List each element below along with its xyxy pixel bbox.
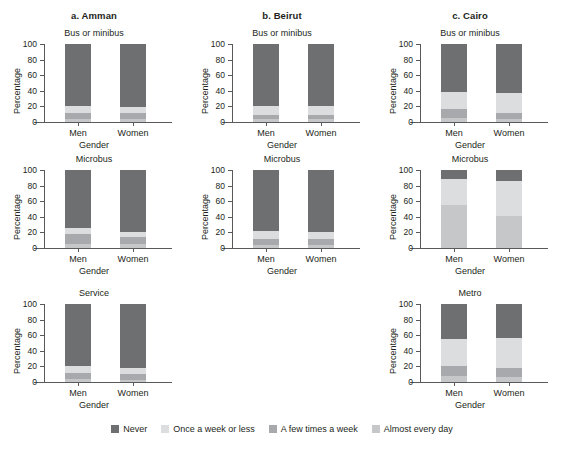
bar-segment <box>308 44 334 106</box>
y-axis-tick-label: 100 <box>23 299 37 309</box>
y-axis-tick <box>40 60 44 61</box>
panel-letter: c. Cairo <box>376 10 564 21</box>
y-axis-tick <box>416 320 420 321</box>
y-axis-tick <box>416 91 420 92</box>
x-axis-line <box>410 248 548 249</box>
y-axis-tick <box>228 122 232 123</box>
y-axis-tick-label: 40 <box>404 346 413 356</box>
bar-segment <box>441 205 467 248</box>
y-axis-tick <box>416 186 420 187</box>
x-axis-tick-label: Women <box>118 388 149 398</box>
x-axis-tick-label: Men <box>445 254 463 264</box>
y-axis-tick-label: 60 <box>28 70 37 80</box>
bar-segment <box>253 170 279 231</box>
y-axis-tick-label: 80 <box>404 315 413 325</box>
y-axis-line <box>420 44 421 122</box>
x-axis-tick-label: Men <box>69 128 87 138</box>
y-axis-tick <box>416 304 420 305</box>
x-axis-line <box>222 248 360 249</box>
x-axis-tick <box>509 122 510 126</box>
chart-panel: ServicePercentage020406080100MenWomenGen… <box>0 282 188 420</box>
x-axis-tick-label: Men <box>445 128 463 138</box>
y-axis-line <box>44 304 45 382</box>
x-axis-tick <box>78 382 79 386</box>
y-axis-tick <box>40 304 44 305</box>
legend-item[interactable]: Almost every day <box>372 424 453 434</box>
y-axis-tick <box>416 217 420 218</box>
y-axis-tick-label: 80 <box>404 181 413 191</box>
chart-panel: MicrobusPercentage020406080100MenWomenGe… <box>376 152 564 282</box>
stacked-bar <box>496 170 522 248</box>
y-axis-tick <box>40 201 44 202</box>
plot-area: 020406080100MenWomen <box>44 170 162 248</box>
legend-swatch-icon <box>111 425 119 433</box>
bar-segment <box>253 44 279 106</box>
y-axis-label: Percentage <box>12 194 22 240</box>
panel-subtitle: Bus or minibus <box>376 28 564 38</box>
y-axis-tick <box>228 186 232 187</box>
bar-segment <box>441 92 467 108</box>
legend-item[interactable]: Once a week or less <box>161 424 255 434</box>
y-axis-tick <box>40 186 44 187</box>
x-axis-tick-label: Men <box>257 254 275 264</box>
x-axis-tick-label: Men <box>257 128 275 138</box>
bar-segment <box>441 44 467 92</box>
y-axis-line <box>232 170 233 248</box>
y-axis-tick-label: 40 <box>28 212 37 222</box>
bar-segment <box>65 366 91 373</box>
chart-panel: a. AmmanBus or minibusPercentage02040608… <box>0 0 188 152</box>
bar-segment <box>65 44 91 106</box>
legend-swatch-icon <box>161 425 169 433</box>
y-axis-tick <box>40 351 44 352</box>
legend-item[interactable]: A few times a week <box>269 424 358 434</box>
y-axis-tick-label: 20 <box>216 101 225 111</box>
x-axis-title: Gender <box>376 266 564 276</box>
y-axis-tick-label: 80 <box>28 55 37 65</box>
stacked-bar <box>253 170 279 248</box>
y-axis-tick <box>228 60 232 61</box>
stacked-bar <box>65 170 91 248</box>
legend-label: A few times a week <box>281 424 358 434</box>
x-axis-title: Gender <box>0 266 188 276</box>
plot-area: 020406080100MenWomen <box>420 170 538 248</box>
x-axis-tick-label: Women <box>306 254 337 264</box>
x-axis-title: Gender <box>188 140 376 150</box>
x-axis-tick <box>454 122 455 126</box>
legend-item[interactable]: Never <box>111 424 147 434</box>
y-axis-line <box>420 304 421 382</box>
y-axis-label: Percentage <box>388 68 398 114</box>
x-axis-tick <box>509 248 510 252</box>
bar-segment <box>496 44 522 93</box>
y-axis-tick-label: 40 <box>216 86 225 96</box>
y-axis-tick-label: 40 <box>28 86 37 96</box>
legend-swatch-icon <box>269 425 277 433</box>
y-axis-tick <box>40 44 44 45</box>
bar-segment <box>496 181 522 216</box>
y-axis-tick-label: 100 <box>211 165 225 175</box>
y-axis-tick <box>228 75 232 76</box>
y-axis-tick <box>416 75 420 76</box>
x-axis-tick-label: Women <box>306 128 337 138</box>
bar-segment <box>308 170 334 232</box>
x-axis-line <box>222 122 360 123</box>
panel-subtitle: Bus or minibus <box>0 28 188 38</box>
y-axis-tick <box>40 91 44 92</box>
y-axis-tick-label: 20 <box>28 361 37 371</box>
y-axis-tick-label: 80 <box>404 55 413 65</box>
x-axis-title: Gender <box>376 400 564 410</box>
panel-subtitle: Microbus <box>376 154 564 164</box>
x-axis-title: Gender <box>376 140 564 150</box>
x-axis-tick-label: Men <box>69 254 87 264</box>
y-axis-tick <box>40 320 44 321</box>
x-axis-title: Gender <box>0 140 188 150</box>
bar-segment <box>496 338 522 368</box>
x-axis-tick-label: Women <box>118 254 149 264</box>
y-axis-label: Percentage <box>388 194 398 240</box>
x-axis-tick <box>321 122 322 126</box>
chart-legend: NeverOnce a week or lessA few times a we… <box>0 424 564 434</box>
x-axis-tick <box>133 122 134 126</box>
x-axis-tick-label: Women <box>118 128 149 138</box>
y-axis-tick <box>228 217 232 218</box>
y-axis-tick-label: 0 <box>32 377 37 387</box>
y-axis-tick <box>228 248 232 249</box>
